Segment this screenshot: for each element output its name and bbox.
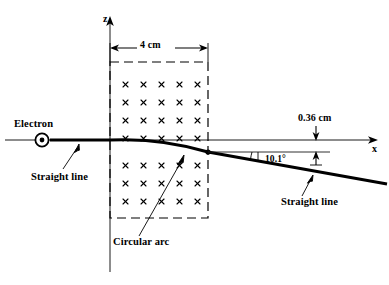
x-cross-icon <box>195 82 200 87</box>
electron-trajectory <box>50 140 387 184</box>
physics-diagram-figure: z x Electron 4 cm 0.36 cm 10.1° Straight… <box>0 0 389 285</box>
x-cross-icon <box>177 199 182 204</box>
axes-group <box>5 16 378 272</box>
x-cross-icon <box>177 181 182 186</box>
x-cross-icon <box>123 199 128 204</box>
x-cross-icon <box>141 118 146 123</box>
x-cross-icon <box>123 118 128 123</box>
electron-label: Electron <box>14 119 53 130</box>
diagram-canvas <box>0 0 389 285</box>
x-cross-icon <box>141 100 146 105</box>
x-cross-icon <box>195 199 200 204</box>
x-cross-icon <box>159 118 164 123</box>
leader-straight-line-left <box>63 144 79 169</box>
leader-straight-line-right <box>302 175 313 196</box>
x-cross-icon <box>195 181 200 186</box>
trajectory-circular-arc <box>110 140 208 152</box>
width-dimension-label: 4 cm <box>140 40 161 50</box>
x-cross-icon <box>195 163 200 168</box>
x-cross-icon <box>123 82 128 87</box>
x-cross-icon <box>123 163 128 168</box>
circled-dot-icon-center <box>40 138 45 143</box>
x-cross-icon <box>123 100 128 105</box>
x-cross-icon <box>159 163 164 168</box>
z-axis-label: z <box>103 14 108 24</box>
x-cross-icon <box>141 82 146 87</box>
deflection-angle-label: 10.1° <box>265 155 286 165</box>
x-cross-icon <box>195 100 200 105</box>
x-cross-icon <box>159 100 164 105</box>
straight-line-label-left: Straight line <box>31 172 88 183</box>
straight-line-label-right: Straight line <box>281 197 338 208</box>
x-cross-icon <box>195 118 200 123</box>
x-cross-icon <box>123 181 128 186</box>
x-cross-icon <box>159 82 164 87</box>
circular-arc-label: Circular arc <box>113 237 169 248</box>
trajectory-outgoing-straight <box>208 152 387 184</box>
x-cross-icon <box>159 181 164 186</box>
x-cross-icon <box>177 118 182 123</box>
deflection-dimension-label: 0.36 cm <box>298 113 331 123</box>
x-cross-icon <box>141 181 146 186</box>
x-cross-icon <box>141 163 146 168</box>
x-cross-icon <box>141 199 146 204</box>
x-cross-icon <box>177 82 182 87</box>
x-axis-label: x <box>372 144 377 154</box>
electron-marker-group <box>35 133 48 146</box>
x-cross-icon <box>177 100 182 105</box>
